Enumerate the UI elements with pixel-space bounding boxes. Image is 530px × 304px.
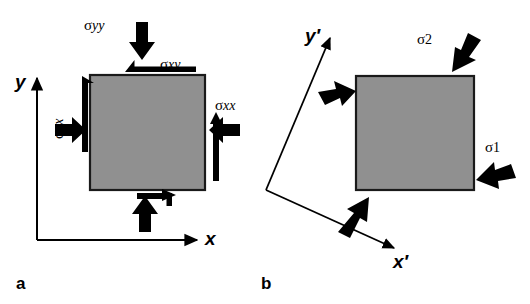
y-axis-label: y xyxy=(15,72,26,91)
sigma-2-arrow xyxy=(452,33,481,72)
y-prime-axis-label: y′ xyxy=(305,26,320,45)
sigma-yy-symbol: σ xyxy=(84,17,92,33)
panel-b-graphics xyxy=(266,33,516,248)
sigma-yx-symbol: σ xyxy=(50,131,66,139)
sigma-xx-symbol: σ xyxy=(215,97,223,113)
x-axis-label: x xyxy=(205,229,216,248)
sigma-xy-subscript: xy xyxy=(168,57,180,72)
stress-tensor-figure: σyy σxy σyx σxx y x σ2 σ1 y′ x′ a b xyxy=(0,0,530,304)
panel-b-bottom-arrow xyxy=(338,197,369,238)
sigma-1-symbol: σ xyxy=(485,139,493,155)
panel-b-letter: b xyxy=(261,275,271,292)
panel-a-bottom-normal-arrow xyxy=(132,196,158,232)
sigma-yx-label: σyx xyxy=(51,118,66,139)
panel-a-graphics xyxy=(37,22,240,240)
y-prime-axis-line xyxy=(266,38,330,190)
panel-a-block xyxy=(90,75,205,190)
sigma-yy-subscript: yy xyxy=(92,18,104,33)
x-prime-axis-line xyxy=(266,190,394,248)
sigma-2-symbol: σ xyxy=(417,31,425,47)
sigma-2-label: σ2 xyxy=(417,32,432,47)
sigma-yy-label: σyy xyxy=(84,18,105,33)
sigma-1-label: σ1 xyxy=(485,140,500,155)
sigma-1-subscript: 1 xyxy=(493,140,500,155)
sigma-xx-label: σxx xyxy=(215,98,236,113)
panel-a-letter: a xyxy=(16,275,25,292)
sigma-1-arrow xyxy=(476,162,516,189)
figure-graphics xyxy=(0,0,530,304)
sigma-xy-label: σxy xyxy=(160,57,181,72)
sigma-2-subscript: 2 xyxy=(425,32,432,47)
panel-b-block xyxy=(356,76,474,190)
x-prime-axis-label: x′ xyxy=(393,252,408,271)
panel-a-right-shear-arrow xyxy=(210,112,222,188)
sigma-xy-symbol: σ xyxy=(160,56,168,72)
sigma-yy-arrow xyxy=(129,22,155,60)
panel-b-left-arrow xyxy=(318,81,356,106)
sigma-yx-subscript: yx xyxy=(51,118,66,130)
sigma-xx-subscript: xx xyxy=(223,98,235,113)
